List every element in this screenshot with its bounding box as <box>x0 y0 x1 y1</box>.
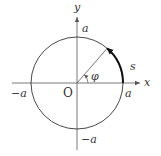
x-negative-tick-label: −a <box>11 87 27 100</box>
y-negative-tick-label: −a <box>81 133 97 146</box>
x-axis-label: x <box>144 76 151 89</box>
y-axis-label: y <box>73 1 81 14</box>
arc-s <box>107 48 123 83</box>
x-positive-tick-label: a <box>125 87 132 100</box>
origin-label: O <box>63 86 73 100</box>
y-positive-tick-label: a <box>82 22 89 35</box>
angle-arc <box>84 75 88 83</box>
arc-length-label: s <box>130 60 136 73</box>
angle-label: φ <box>91 70 99 83</box>
circle-diagram: y x a −a a −a O φ s <box>0 0 161 156</box>
